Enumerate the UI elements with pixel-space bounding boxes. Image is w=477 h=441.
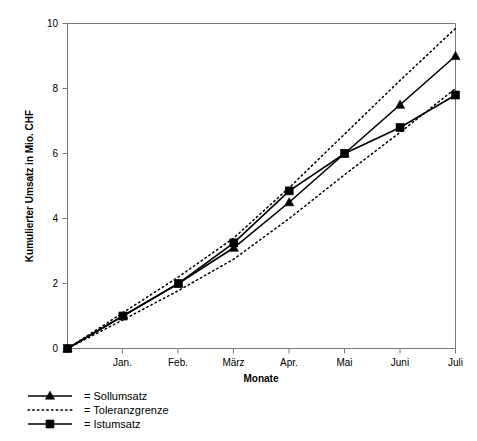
square-marker bbox=[452, 91, 460, 99]
x-tick-label-jan: Jan. bbox=[113, 357, 132, 368]
y-tick-label-6: 6 bbox=[52, 148, 58, 159]
square-marker bbox=[285, 187, 293, 195]
chart-legend: = Sollumsatz = Toleranzgrenze = Istumsat… bbox=[28, 390, 169, 430]
square-marker bbox=[64, 345, 72, 353]
x-axis-title: Monate bbox=[244, 373, 279, 384]
y-tick-label-2: 2 bbox=[52, 278, 58, 289]
legend-entry-toleranzgrenze: = Toleranzgrenze bbox=[28, 404, 169, 416]
legend-label-toleranzgrenze: = Toleranzgrenze bbox=[84, 404, 169, 416]
y-tick-label-8: 8 bbox=[52, 83, 58, 94]
x-tick-marks bbox=[123, 349, 456, 354]
legend-entry-istumsatz: = Istumsatz bbox=[28, 418, 141, 430]
line-chart: 0 2 4 6 8 10 Kumulierter Umsatz in Mio. … bbox=[0, 0, 477, 441]
legend-label-istumsatz: = Istumsatz bbox=[84, 418, 141, 430]
series-sollumsatz bbox=[63, 51, 460, 352]
legend-label-sollumsatz: = Sollumsatz bbox=[84, 390, 147, 402]
square-marker bbox=[119, 312, 127, 320]
square-marker bbox=[230, 239, 238, 247]
x-tick-labels: Jan. Feb. März Apr. Mai Juni Juli bbox=[113, 357, 463, 368]
x-tick-label-juni: Juni bbox=[391, 357, 409, 368]
series-path bbox=[68, 95, 456, 349]
square-marker bbox=[396, 124, 404, 132]
chart-container: 0 2 4 6 8 10 Kumulierter Umsatz in Mio. … bbox=[0, 0, 477, 441]
series-path bbox=[68, 28, 456, 348]
y-tick-label-4: 4 bbox=[52, 213, 58, 224]
y-tick-label-10: 10 bbox=[47, 18, 59, 29]
triangle-marker bbox=[451, 51, 460, 59]
x-tick-label-apr: Apr. bbox=[280, 357, 298, 368]
y-axis-title: Kumulierter Umsatz in Mio. CHF bbox=[24, 110, 35, 262]
series-istumsatz bbox=[64, 91, 460, 353]
x-tick-label-juli: Juli bbox=[448, 357, 463, 368]
square-icon bbox=[46, 420, 54, 428]
legend-entry-sollumsatz: = Sollumsatz bbox=[28, 390, 147, 402]
series-toleranzgrenze-upper bbox=[68, 28, 456, 348]
y-tick-label-0: 0 bbox=[52, 343, 58, 354]
series-layer bbox=[63, 28, 460, 352]
x-tick-label-feb: Feb. bbox=[168, 357, 188, 368]
y-tick-labels: 0 2 4 6 8 10 bbox=[47, 18, 59, 354]
square-marker bbox=[341, 150, 349, 158]
plot-axes bbox=[68, 24, 456, 349]
series-path bbox=[68, 56, 456, 349]
square-marker bbox=[174, 280, 182, 288]
x-tick-label-maerz: März bbox=[222, 357, 244, 368]
y-tick-marks bbox=[63, 24, 68, 349]
x-tick-label-mai: Mai bbox=[336, 357, 352, 368]
